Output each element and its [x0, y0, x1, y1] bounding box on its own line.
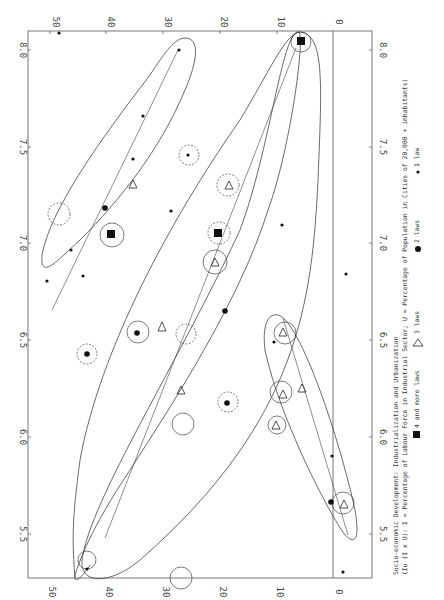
- legend-triangle-icon: [413, 339, 423, 346]
- tick-label: 6.0: [378, 429, 388, 445]
- tick-label: 8.0: [18, 42, 28, 58]
- tick-label: 10: [276, 17, 286, 28]
- tick-label: 7.5: [378, 139, 388, 155]
- tick-label: 6.0: [18, 429, 28, 445]
- legend-small-dot-icon: [416, 170, 419, 173]
- tick-label: 5.5: [18, 526, 28, 542]
- legend-label: 1 law: [413, 148, 421, 167]
- tick-label: 8.0: [378, 42, 388, 58]
- tick-label: 0: [334, 589, 344, 594]
- tick-label: 6.5: [378, 332, 388, 348]
- tick-label: 20: [218, 587, 228, 598]
- tick-label: 50: [47, 587, 57, 598]
- tick-label: 7.5: [18, 139, 28, 155]
- tick-label: 10: [275, 587, 285, 598]
- caption-subtitle: (Iu (I x U): I = Percentage of Labour Fo…: [401, 79, 409, 575]
- tick-label: 6.5: [18, 332, 28, 348]
- tick-label: 30: [163, 17, 173, 28]
- cluster-outlines: [42, 32, 357, 580]
- point-small: [57, 31, 60, 34]
- tick-label: 30: [161, 587, 171, 598]
- legend-label: 3 laws: [413, 311, 421, 334]
- top-axis: 50 40 30 20 10 0: [51, 17, 344, 28]
- legend-label: 2 laws: [413, 220, 421, 243]
- trend-lines: [52, 48, 348, 538]
- right-axis: 8.0 7.5 7.0 6.5 6.0 5.5: [378, 42, 388, 542]
- tick-label: 50: [51, 17, 61, 28]
- tick-label: 40: [104, 587, 114, 598]
- legend-square-icon: [413, 431, 420, 438]
- dashed-point-rings: [48, 145, 239, 412]
- tick-label: 40: [106, 17, 116, 28]
- tick-label: 20: [219, 17, 229, 28]
- bottom-axis: 50 40 30 20 10 0: [47, 587, 344, 598]
- tick-label: 7.0: [18, 235, 28, 251]
- legend: 4 and more laws 3 laws 2 laws 1 law: [413, 148, 423, 438]
- point-square: [297, 37, 305, 45]
- caption: Socio-economic Development: Industrializ…: [392, 79, 409, 575]
- legend-label: 4 and more laws: [413, 370, 421, 428]
- legend-large-dot-icon: [415, 246, 421, 252]
- left-axis: 8.0 7.5 7.0 6.5 6.0 5.5: [18, 42, 28, 542]
- tick-label: 0: [334, 19, 344, 24]
- tick-label: 7.0: [378, 235, 388, 251]
- tick-label: 5.5: [378, 526, 388, 542]
- rotated-scatter-chart: 50 40 30 20 10 0 50 40 30 20 10 0 8.0 7.…: [0, 0, 444, 600]
- caption-title: Socio-economic Development: Industrializ…: [392, 336, 400, 575]
